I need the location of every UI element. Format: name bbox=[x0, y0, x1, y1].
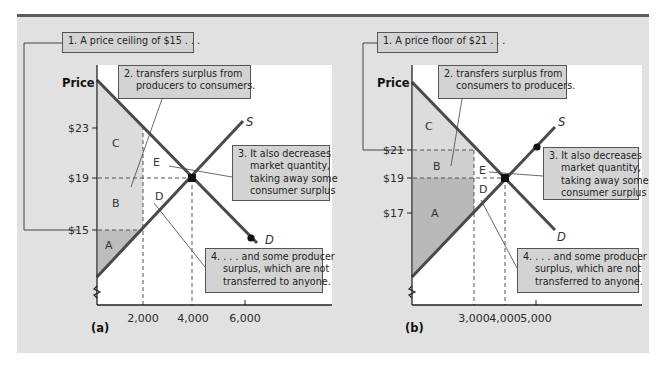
region-label-a-a: A bbox=[105, 239, 113, 252]
supply-label-b: S bbox=[558, 115, 565, 129]
supply-label-a: S bbox=[246, 115, 253, 129]
callout-producer-surplus-a: 4. . . . and some producer surplus, whic… bbox=[205, 248, 323, 293]
callout-text: surplus, which are not bbox=[523, 263, 633, 275]
callout-price-ceiling: 1. A price ceiling of $15 . . . bbox=[62, 32, 194, 53]
callout-decrease-quantity-a: 3. It also decreases market quantity, ta… bbox=[232, 145, 330, 201]
callout-text: consumer surplus bbox=[238, 185, 324, 197]
callout-text: transferred to anyone. bbox=[523, 276, 633, 288]
callout-text: 1. A price floor of $21 . . . bbox=[383, 35, 492, 47]
region-label-c-b: C bbox=[425, 120, 433, 133]
region-label-a-b: A bbox=[431, 207, 439, 220]
xtick-label-a-6000: 6,000 bbox=[229, 312, 261, 325]
region-label-d-b: D bbox=[479, 183, 487, 196]
callout-text: 1. A price ceiling of $15 . . . bbox=[68, 35, 188, 47]
callout-text: 2. transfers surplus from bbox=[124, 68, 245, 80]
callout-price-floor: 1. A price floor of $21 . . . bbox=[377, 32, 498, 53]
callout-text: taking away some bbox=[238, 173, 324, 185]
region-label-b-a: B bbox=[112, 197, 120, 210]
ytick-label-a-23: $23 bbox=[68, 122, 89, 135]
callout-transfer-b: 2. transfers surplus from consumers to p… bbox=[438, 65, 567, 99]
region-label-b-b: B bbox=[433, 160, 441, 173]
callout-text: surplus, which are not bbox=[211, 263, 317, 275]
region-label-e-a: E bbox=[153, 156, 160, 169]
equilibrium-point-a bbox=[188, 174, 196, 182]
callout-text: 3. It also decreases bbox=[549, 150, 633, 162]
ytick-label-a-15: $15 bbox=[68, 224, 89, 237]
ytick-label-b-21: $21 bbox=[383, 144, 404, 157]
callout-producer-surplus-b: 4. . . . and some producer surplus, whic… bbox=[517, 248, 639, 293]
xtick-label-b-3000: 3,000 bbox=[458, 312, 490, 325]
panel-tag-a: (a) bbox=[91, 321, 109, 335]
callout-text: 2. transfers surplus from bbox=[444, 68, 561, 80]
demand-label-b: D bbox=[557, 230, 566, 244]
callout-text: 4. . . . and some producer bbox=[211, 251, 317, 263]
demand-end-dot-a bbox=[247, 234, 254, 241]
region-b-shade bbox=[413, 150, 474, 178]
ytick-label-a-19: $19 bbox=[68, 172, 89, 185]
xtick-label-a-4000: 4,000 bbox=[177, 312, 209, 325]
region-label-d-a: D bbox=[155, 190, 163, 203]
callout-text: market quantity, bbox=[238, 160, 324, 172]
xtick-label-b-5000: 5,000 bbox=[520, 312, 552, 325]
callout-text: consumers to producers. bbox=[444, 80, 561, 92]
bracket-line-a bbox=[24, 43, 78, 230]
y-axis-title-b: Price bbox=[377, 76, 410, 90]
region-b-shade bbox=[98, 178, 143, 230]
callout-text: market quantity, bbox=[549, 162, 633, 174]
callout-text: transferred to anyone. bbox=[211, 276, 317, 288]
ytick-label-b-17: $17 bbox=[383, 207, 404, 220]
demand-label-a: D bbox=[265, 233, 274, 247]
panel-tag-b: (b) bbox=[405, 321, 424, 335]
callout-text: consumer surplus bbox=[549, 187, 633, 199]
callout-decrease-quantity-b: 3. It also decreases market quantity, ta… bbox=[543, 147, 639, 200]
region-label-c-a: C bbox=[112, 137, 120, 150]
region-label-e-b: E bbox=[479, 164, 486, 177]
equilibrium-point-b bbox=[501, 174, 509, 182]
xtick-label-b-4000: 4,000 bbox=[489, 312, 521, 325]
callout-text: 3. It also decreases bbox=[238, 148, 324, 160]
y-axis-title-a: Price bbox=[62, 76, 95, 90]
xtick-label-a-2000: 2,000 bbox=[127, 312, 159, 325]
ytick-label-b-19: $19 bbox=[383, 172, 404, 185]
callout-text: producers to consumers. bbox=[124, 80, 245, 92]
callout-transfer-a: 2. transfers surplus from producers to c… bbox=[118, 65, 251, 99]
price-controls-figure: Price $23 $19 $15 2,000 4,000 6,000 (a) … bbox=[0, 0, 664, 366]
bracket-line-b bbox=[363, 43, 405, 150]
callout-text: 4. . . . and some producer bbox=[523, 251, 633, 263]
supply-dot-b bbox=[533, 143, 540, 150]
callout-text: taking away some bbox=[549, 175, 633, 187]
